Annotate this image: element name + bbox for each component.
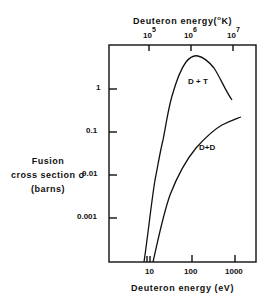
x2-tick-base: 10 bbox=[184, 31, 193, 40]
plot-frame bbox=[109, 45, 256, 262]
fusion-cross-section-chart bbox=[0, 0, 269, 297]
y-axis-title-line3: (barns) bbox=[0, 182, 96, 196]
series-dt-label: D + T bbox=[188, 77, 208, 86]
top-axis-ticks bbox=[149, 45, 233, 51]
series-dd-curve bbox=[153, 117, 241, 262]
x2-tick-base: 10 bbox=[227, 31, 236, 40]
top-axis-title: Deuteron energy(oK) bbox=[133, 15, 232, 26]
bottom-axis-title: Deuteron energy (eV) bbox=[131, 283, 234, 293]
x2-tick-1e7: 107 bbox=[227, 31, 240, 40]
bottom-axis-ticks bbox=[147, 255, 235, 262]
left-axis-ticks bbox=[109, 89, 117, 218]
x-tick-1000: 1000 bbox=[225, 267, 243, 276]
y-tick-0.1: 0.1 bbox=[86, 126, 97, 135]
x2-tick-1e5: 105 bbox=[143, 31, 156, 40]
x-tick-100: 100 bbox=[184, 267, 197, 276]
x2-tick-exponent: 7 bbox=[236, 26, 240, 33]
y-axis-title-line1: Fusion bbox=[0, 154, 96, 168]
y-tick-1: 1 bbox=[96, 83, 100, 92]
x2-tick-exponent: 6 bbox=[193, 26, 197, 33]
x2-tick-1e6: 106 bbox=[184, 31, 197, 40]
top-axis-title-text: Deuteron energy( bbox=[133, 16, 217, 26]
top-axis-unit: K) bbox=[221, 16, 232, 26]
y-tick-0.001: 0.001 bbox=[77, 212, 97, 221]
x2-tick-base: 10 bbox=[143, 31, 152, 40]
y-axis-title: Fusion cross section σ (barns) bbox=[0, 154, 96, 196]
series-dd-label: D+D bbox=[199, 143, 215, 152]
x2-tick-exponent: 5 bbox=[152, 26, 156, 33]
y-axis-title-line2: cross section σ bbox=[0, 168, 96, 182]
x-tick-10: 10 bbox=[145, 267, 154, 276]
